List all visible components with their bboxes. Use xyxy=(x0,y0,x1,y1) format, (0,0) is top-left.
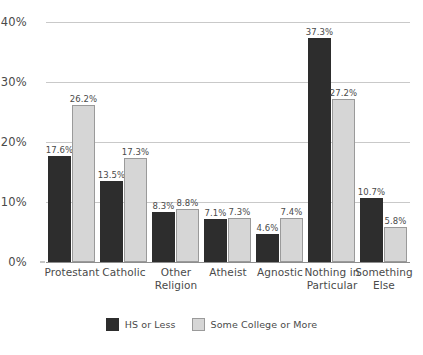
y-axis-tick-mark xyxy=(40,262,45,263)
bar-hs[interactable]: 17.6% xyxy=(48,156,71,262)
bar-value-label: 5.8% xyxy=(385,216,407,226)
chart-legend: HS or LessSome College or More xyxy=(0,318,423,331)
x-axis-labels: ProtestantCatholicOtherReligionAtheistAg… xyxy=(46,266,410,306)
bar-value-label: 13.5% xyxy=(98,170,126,180)
bar-group: 17.6%26.2% xyxy=(46,22,98,262)
bar-value-label: 8.3% xyxy=(153,201,175,211)
bar-hs[interactable]: 37.3% xyxy=(308,38,331,262)
bar-value-label: 7.4% xyxy=(281,207,303,217)
axis-line-zero xyxy=(46,262,410,263)
bar-hs[interactable]: 10.7% xyxy=(360,198,383,262)
bar-group: 8.3%8.8% xyxy=(150,22,202,262)
bar-value-label: 4.6% xyxy=(257,223,279,233)
bar-hs[interactable]: 13.5% xyxy=(100,181,123,262)
legend-swatch-icon xyxy=(106,318,119,331)
bar-hs[interactable]: 7.1% xyxy=(204,219,227,262)
legend-label: HS or Less xyxy=(125,319,176,330)
legend-item[interactable]: Some College or More xyxy=(192,318,318,331)
bar-value-label: 8.8% xyxy=(177,198,199,208)
plot-area: 0%10%20%30%40%17.6%26.2%13.5%17.3%8.3%8.… xyxy=(46,22,410,262)
legend-swatch-icon xyxy=(192,318,205,331)
legend-label: Some College or More xyxy=(211,319,318,330)
bar-value-label: 7.3% xyxy=(229,207,251,217)
bar-value-label: 7.1% xyxy=(205,208,227,218)
bar-value-label: 27.2% xyxy=(330,88,358,98)
bar-group: 4.6%7.4% xyxy=(254,22,306,262)
bar-hs[interactable]: 8.3% xyxy=(152,212,175,262)
bar-group: 37.3%27.2% xyxy=(306,22,358,262)
y-axis-tick-label: 40% xyxy=(0,15,27,29)
bar-value-label: 17.6% xyxy=(46,145,74,155)
bar-college[interactable]: 5.8% xyxy=(384,227,407,262)
legend-item[interactable]: HS or Less xyxy=(106,318,176,331)
y-axis-tick-label: 10% xyxy=(0,195,27,209)
bar-chart: 0%10%20%30%40%17.6%26.2%13.5%17.3%8.3%8.… xyxy=(0,0,423,355)
y-axis-tick-label: 20% xyxy=(0,135,27,149)
bar-college[interactable]: 26.2% xyxy=(72,105,95,262)
bar-group: 7.1%7.3% xyxy=(202,22,254,262)
bar-value-label: 26.2% xyxy=(70,94,98,104)
x-axis-label: SomethingElse xyxy=(351,266,417,292)
bar-group: 13.5%17.3% xyxy=(98,22,150,262)
bar-college[interactable]: 7.4% xyxy=(280,218,303,262)
y-axis-tick-label: 30% xyxy=(0,75,27,89)
bar-group: 10.7%5.8% xyxy=(358,22,410,262)
bar-value-label: 17.3% xyxy=(122,147,150,157)
bar-college[interactable]: 27.2% xyxy=(332,99,355,262)
bar-hs[interactable]: 4.6% xyxy=(256,234,279,262)
bar-college[interactable]: 8.8% xyxy=(176,209,199,262)
bar-college[interactable]: 7.3% xyxy=(228,218,251,262)
bar-value-label: 37.3% xyxy=(306,27,334,37)
bar-college[interactable]: 17.3% xyxy=(124,158,147,262)
y-axis-tick-label: 0% xyxy=(0,255,27,269)
bar-value-label: 10.7% xyxy=(358,187,386,197)
